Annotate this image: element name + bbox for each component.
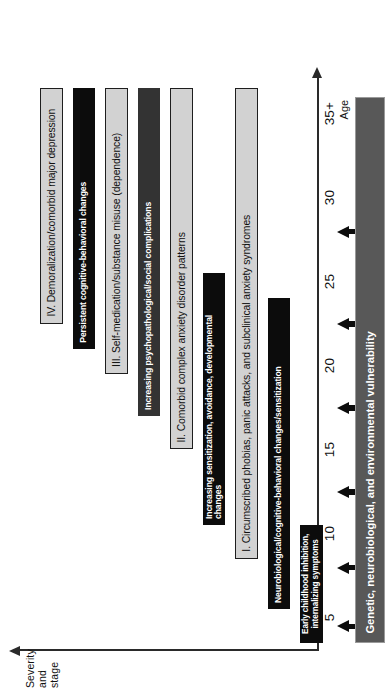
severity-axis-label: Severity and stage <box>24 649 61 688</box>
severity-axis-line <box>18 649 318 651</box>
bar-stage-1: I. Circumscribed phobias, panic attacks,… <box>235 88 258 558</box>
age-tick-label: 15 <box>322 442 337 457</box>
bar-label: Increasing psychopathological/social com… <box>144 88 153 415</box>
arrow-stem <box>349 624 355 629</box>
arrow-stem <box>349 565 355 570</box>
figure-canvas: Severity and stage 5101520253035+ Age IV… <box>0 0 391 692</box>
bar-label: IV. Demoralization/comorbid major depres… <box>46 89 57 322</box>
bar-label: Persistent cognitive-behavioral changes <box>79 88 88 348</box>
age-tick-label: 30 <box>322 190 337 205</box>
bar-stage-4: IV. Demoralization/comorbid major depres… <box>40 88 63 323</box>
age-axis-arrow-icon <box>312 67 322 78</box>
bar-process-neurobiological: Neurobiological/cognitive-behavioral cha… <box>268 298 291 609</box>
vulnerability-up-arrow-icon <box>337 562 349 574</box>
age-tick-label: 25 <box>322 274 337 289</box>
bar-stage-2: II. Comorbid complex anxiety disorder pa… <box>170 88 193 449</box>
bar-label: II. Comorbid complex anxiety disorder pa… <box>176 89 187 448</box>
arrow-stem <box>349 405 355 410</box>
bar-process-increasing-sensitization: Increasing sensitization, avoidance, dev… <box>203 273 226 525</box>
vulnerability-up-arrow-icon <box>337 318 349 330</box>
bar-stage-3: III. Self-medication/substance misuse (d… <box>105 88 128 374</box>
bar-label: Increasing sensitization, avoidance, dev… <box>205 273 223 525</box>
arrow-stem <box>349 321 355 326</box>
bar-process-persistent-cognitive: Persistent cognitive-behavioral changes <box>73 88 96 348</box>
age-tick-label: 10 <box>322 526 337 541</box>
severity-axis-arrow-icon <box>9 646 20 656</box>
age-tick-label: 5 <box>322 614 337 622</box>
vulnerability-up-arrow-icon <box>337 620 349 632</box>
bar-process-early-childhood: Early childhood inhibition, internalizin… <box>300 525 323 643</box>
vulnerability-up-arrow-icon <box>337 226 349 238</box>
bar-process-increasing-psychopathological: Increasing psychopathological/social com… <box>138 88 161 415</box>
age-tick-label: 20 <box>322 358 337 373</box>
bar-label: Neurobiological/cognitive-behavioral cha… <box>274 298 283 609</box>
bar-label: III. Self-medication/substance misuse (d… <box>111 89 122 373</box>
bar-label: I. Circumscribed phobias, panic attacks,… <box>241 89 252 557</box>
age-axis-title: Age <box>338 100 350 120</box>
age-tick-label: 35+ <box>322 102 337 126</box>
arrow-stem <box>349 229 355 234</box>
vulnerability-up-arrow-icon <box>337 402 349 414</box>
vulnerability-up-arrow-icon <box>337 486 349 498</box>
arrow-stem <box>349 489 355 494</box>
foundation-bar-label: Genetic, neurobiological, and environmen… <box>364 323 376 641</box>
foundation-vulnerability-bar: Genetic, neurobiological, and environmen… <box>355 97 385 643</box>
rotated-figure-wrapper: Severity and stage 5101520253035+ Age IV… <box>0 0 391 692</box>
bar-label: Early childhood inhibition, internalizin… <box>301 525 321 643</box>
